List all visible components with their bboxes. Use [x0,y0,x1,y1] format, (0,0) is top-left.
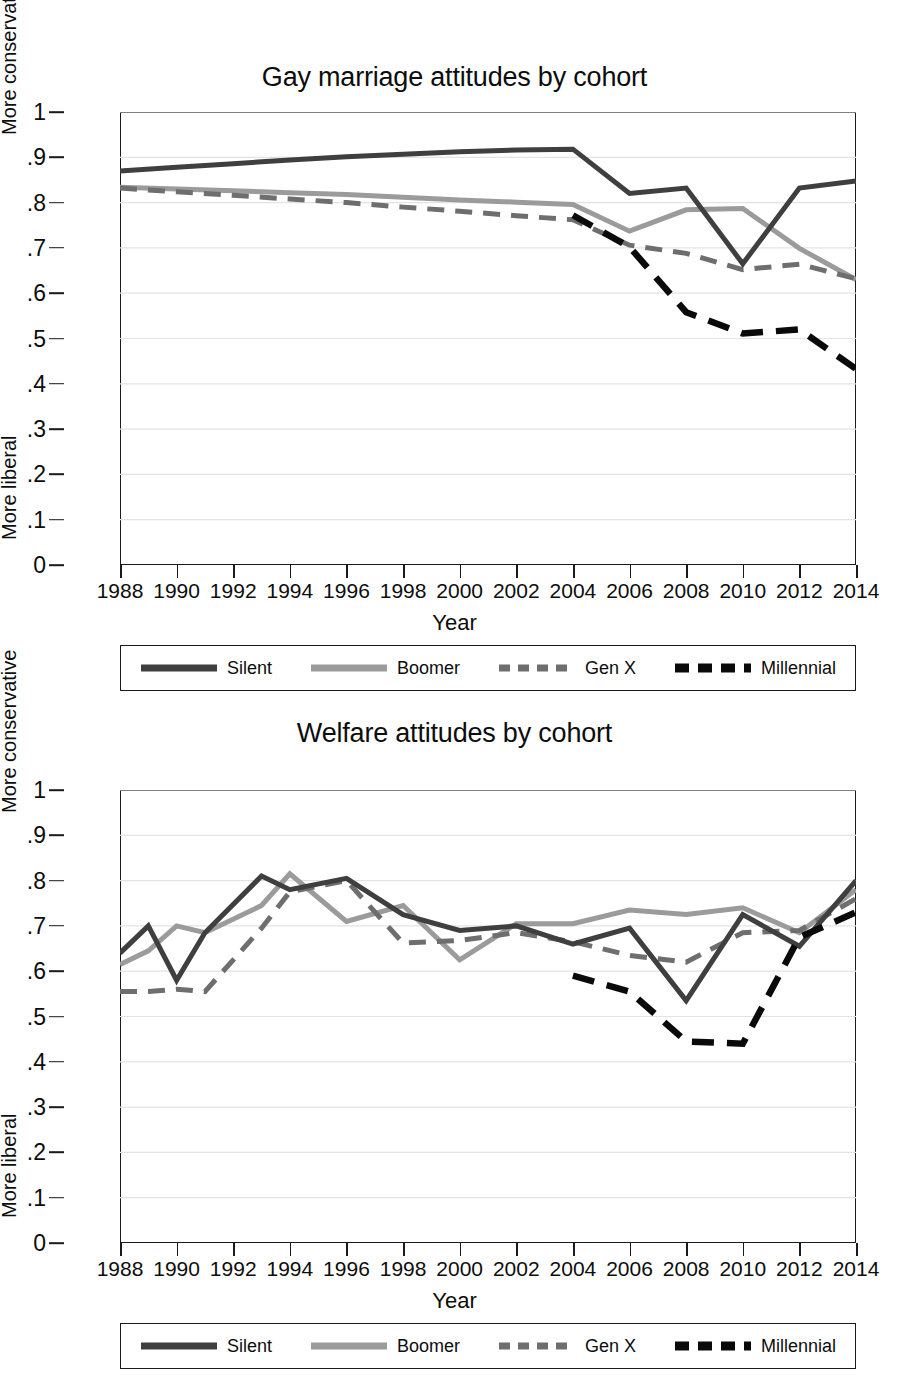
chart-panel-gay-marriage: Gay marriage attitudes by cohort 0.1.2.3… [0,0,909,700]
x-tick-mark [290,1243,292,1256]
y-tick-mark [49,1106,64,1108]
chart-canvas-welfare [120,790,856,1243]
x-tick-label: 2014 [833,580,880,602]
x-tick-label: 1994 [266,580,313,602]
chart-panel-welfare: Welfare attitudes by cohort 0.1.2.3.4.5.… [0,700,909,1400]
legend-swatch-genx-icon [498,1339,576,1353]
x-tick-mark [799,1243,801,1256]
x-tick-mark [233,565,235,578]
x-axis-title-welfare: Year [0,1288,909,1314]
x-tick-label: 1992 [210,580,257,602]
x-tick-label: 1988 [97,1258,144,1280]
x-tick-label: 2010 [719,580,766,602]
x-tick-label: 1988 [97,580,144,602]
x-tick-mark [460,565,462,578]
x-tick-mark [177,565,179,578]
legend-item-silent[interactable]: Silent [140,1336,272,1357]
y-tick-label: .5 [27,1005,46,1028]
y-tick-label: .1 [27,1186,46,1209]
legend-item-millennial[interactable]: Millennial [674,658,836,679]
series-line-boomer [120,874,856,965]
y-tick-mark [49,202,64,204]
legend-item-silent[interactable]: Silent [140,658,272,679]
y-axis-label-more-liberal: More liberal [0,1114,21,1218]
y-axis-label-more-liberal: More liberal [0,436,21,540]
y-tick-label: 1 [33,101,46,124]
x-tick-mark [346,1243,348,1256]
x-tick-mark [686,565,688,578]
y-tick-mark [49,474,64,476]
chart-title-welfare: Welfare attitudes by cohort [0,718,909,749]
y-tick-mark [49,1016,64,1018]
legend-swatch-genx-icon [498,661,576,675]
legend-welfare: SilentBoomerGen XMillennial [120,1323,856,1369]
x-tick-mark [743,565,745,578]
x-tick-mark [403,565,405,578]
plot-area-gay-marriage [120,112,856,565]
y-tick-mark [49,292,64,294]
legend-label-genx: Gen X [585,658,636,679]
x-tick-label: 1996 [323,580,370,602]
legend-label-genx: Gen X [585,1336,636,1357]
x-tick-label: 1990 [153,580,200,602]
legend-item-genx[interactable]: Gen X [498,658,636,679]
series-line-silent [120,876,856,1001]
y-tick-mark [49,247,64,249]
legend-swatch-boomer-icon [310,1339,388,1353]
legend-swatch-silent-icon [140,1339,218,1353]
legend-item-boomer[interactable]: Boomer [310,1336,460,1357]
legend-label-silent: Silent [227,658,272,679]
x-tick-label: 2006 [606,580,653,602]
x-tick-label: 1998 [380,580,427,602]
y-axis-welfare: 0.1.2.3.4.5.6.7.8.91More conservativeMor… [0,790,120,1243]
x-tick-mark [346,565,348,578]
series-line-millennial [573,215,856,369]
y-tick-label: .4 [27,1050,46,1073]
y-tick-label: .4 [27,372,46,395]
x-axis-gay-marriage: 1988199019921994199619982000200220042006… [120,565,856,611]
y-axis-gay-marriage: 0.1.2.3.4.5.6.7.8.91More conservativeMor… [0,112,120,565]
y-tick-mark [49,564,64,566]
x-tick-mark [177,1243,179,1256]
y-tick-label: .2 [27,1141,46,1164]
y-tick-mark [49,157,64,159]
y-tick-label: .7 [27,914,46,937]
legend-label-millennial: Millennial [761,1336,836,1357]
y-tick-mark [49,789,64,791]
x-tick-label: 2012 [776,1258,823,1280]
y-tick-label: 0 [33,1232,46,1255]
y-axis-label-more-conservative: More conservative [0,0,21,135]
x-tick-mark [120,1243,122,1256]
series-line-silent [120,149,856,264]
y-tick-mark [49,1197,64,1199]
y-tick-label: .9 [27,824,46,847]
x-tick-mark [233,1243,235,1256]
legend-item-millennial[interactable]: Millennial [674,1336,836,1357]
y-tick-label: 0 [33,554,46,577]
x-tick-label: 2004 [550,1258,597,1280]
x-tick-label: 1998 [380,1258,427,1280]
legend-item-genx[interactable]: Gen X [498,1336,636,1357]
x-tick-mark [290,565,292,578]
x-tick-mark [516,1243,518,1256]
legend-label-silent: Silent [227,1336,272,1357]
x-tick-mark [403,1243,405,1256]
y-tick-label: 1 [33,779,46,802]
y-tick-mark [49,880,64,882]
x-tick-mark [630,565,632,578]
y-tick-mark [49,1152,64,1154]
legend-gay-marriage: SilentBoomerGen XMillennial [120,645,856,691]
legend-item-boomer[interactable]: Boomer [310,658,460,679]
x-tick-mark [573,1243,575,1256]
x-tick-label: 2006 [606,1258,653,1280]
y-tick-label: .6 [27,282,46,305]
x-tick-mark [686,1243,688,1256]
series-line-gen-x [120,881,856,992]
y-tick-label: .8 [27,191,46,214]
y-tick-label: .7 [27,236,46,259]
x-tick-mark [120,565,122,578]
x-tick-label: 1990 [153,1258,200,1280]
y-axis-label-more-conservative: More conservative [0,649,21,812]
x-tick-label: 2000 [436,580,483,602]
x-tick-label: 1994 [266,1258,313,1280]
